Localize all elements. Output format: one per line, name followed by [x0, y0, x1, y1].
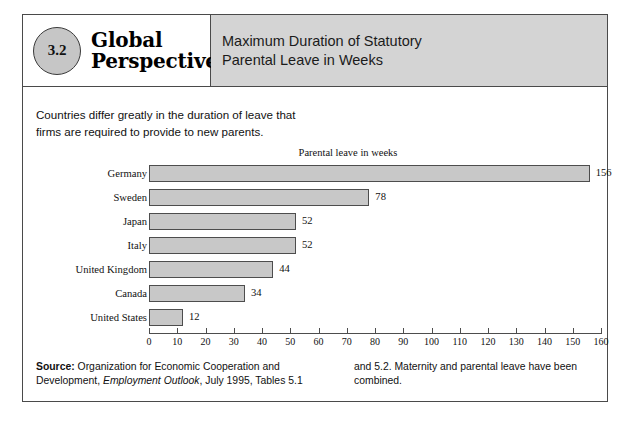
bar-category-label: United Kingdom	[23, 264, 147, 275]
bar-category-label: Sweden	[23, 192, 147, 203]
axis-tick	[403, 328, 404, 334]
axis-tick-label: 120	[481, 336, 496, 347]
axis-tick-label: 160	[594, 336, 609, 347]
axis-tick	[601, 328, 602, 334]
bar-track: 34	[149, 285, 601, 303]
axis-tick	[149, 328, 150, 334]
axis-tick	[347, 328, 348, 334]
source-right-text-1: and 5.2. Maternity and parental leave ha…	[354, 361, 577, 372]
bar-row: Japan52	[23, 213, 607, 237]
axis-tick-label: 130	[509, 336, 524, 347]
bar-value-label: 34	[251, 287, 262, 298]
bar-value-label: 12	[189, 311, 200, 322]
bar-category-label: Japan	[23, 216, 147, 227]
axis-tick	[432, 328, 433, 334]
axis-tick-label: 100	[424, 336, 439, 347]
bar-fill	[149, 189, 369, 206]
bar-value-label: 78	[375, 191, 386, 202]
chart-plot-area: Germany156Sweden78Japan52Italy52United K…	[23, 165, 607, 333]
brand-block: 3.2 Global Perspective	[23, 15, 211, 86]
axis-tick-label: 0	[147, 336, 152, 347]
axis-tick	[516, 328, 517, 334]
page-title-line-2: Parental Leave in Weeks	[222, 51, 422, 69]
axis-tick	[375, 328, 376, 334]
page-title: Maximum Duration of Statutory Parental L…	[222, 32, 422, 69]
axis-tick	[206, 328, 207, 334]
bar-track: 12	[149, 309, 601, 327]
chart-caption: Parental leave in weeks	[23, 147, 607, 158]
bar-fill	[149, 213, 296, 230]
bar-fill	[149, 309, 183, 326]
source-label: Source:	[36, 361, 75, 372]
axis-tick-label: 80	[370, 336, 380, 347]
figure-header: 3.2 Global Perspective Maximum Duration …	[23, 15, 607, 87]
bar-row: Italy52	[23, 237, 607, 261]
figure-number-badge: 3.2	[33, 27, 81, 75]
source-column-right: and 5.2. Maternity and parental leave ha…	[354, 360, 594, 389]
bar-value-label: 44	[279, 263, 290, 274]
axis-tick-label: 150	[565, 336, 580, 347]
bar-track: 52	[149, 213, 601, 231]
axis-tick-label: 110	[452, 336, 467, 347]
bar-category-label: United States	[23, 312, 147, 323]
axis-tick	[177, 328, 178, 334]
brand-title-line-2: Perspective	[91, 51, 218, 72]
axis-tick-label: 30	[229, 336, 239, 347]
source-left-text-2a: Development,	[36, 375, 103, 386]
bar-row: Sweden78	[23, 189, 607, 213]
header-title-band: Maximum Duration of Statutory Parental L…	[211, 15, 607, 86]
bar-row: United States12	[23, 309, 607, 333]
bar-track: 52	[149, 237, 601, 255]
bar-value-label: 52	[302, 239, 313, 250]
axis-tick	[460, 328, 461, 334]
axis-tick	[488, 328, 489, 334]
page-title-line-1: Maximum Duration of Statutory	[222, 32, 422, 50]
bar-category-label: Italy	[23, 240, 147, 251]
bar-track: 78	[149, 189, 601, 207]
bar-value-label: 52	[302, 215, 313, 226]
source-footer: Source: Organization for Economic Cooper…	[36, 360, 594, 389]
brand-title-line-1: Global	[91, 30, 218, 51]
axis-tick-label: 140	[537, 336, 552, 347]
axis-tick	[319, 328, 320, 334]
bar-fill	[149, 261, 273, 278]
intro-text: Countries differ greatly in the duration…	[36, 107, 296, 141]
source-left-text-2b: , July 1995, Tables 5.1	[199, 375, 302, 386]
source-column-left: Source: Organization for Economic Cooper…	[36, 360, 336, 389]
bar-category-label: Canada	[23, 288, 147, 299]
axis-tick-label: 60	[314, 336, 324, 347]
source-left-text-1: Organization for Economic Cooperation an…	[75, 361, 280, 372]
axis-tick	[234, 328, 235, 334]
axis-tick	[290, 328, 291, 334]
axis-tick-label: 20	[201, 336, 211, 347]
axis-tick-label: 90	[398, 336, 408, 347]
bar-fill	[149, 285, 245, 302]
source-right-text-2: combined.	[354, 375, 402, 386]
bar-row: United Kingdom44	[23, 261, 607, 285]
chart-x-axis: 0102030405060708090100110120130140150160	[149, 333, 601, 359]
figure-box: 3.2 Global Perspective Maximum Duration …	[22, 14, 608, 402]
bar-chart: Parental leave in weeks Germany156Sweden…	[23, 147, 607, 347]
intro-line-2: firms are required to provide to new par…	[36, 124, 296, 141]
axis-tick-label: 10	[172, 336, 182, 347]
axis-tick-label: 50	[285, 336, 295, 347]
axis-tick	[545, 328, 546, 334]
bar-row: Canada34	[23, 285, 607, 309]
bar-row: Germany156	[23, 165, 607, 189]
axis-tick-label: 40	[257, 336, 267, 347]
bar-track: 156	[149, 165, 601, 183]
bar-fill	[149, 165, 590, 182]
brand-title: Global Perspective	[91, 30, 218, 71]
bar-track: 44	[149, 261, 601, 279]
axis-tick	[262, 328, 263, 334]
axis-tick-label: 70	[342, 336, 352, 347]
bar-category-label: Germany	[23, 168, 147, 179]
figure-body: Countries differ greatly in the duration…	[23, 87, 607, 401]
bar-fill	[149, 237, 296, 254]
intro-line-1: Countries differ greatly in the duration…	[36, 107, 296, 124]
axis-tick	[573, 328, 574, 334]
source-publication-title: Employment Outlook	[103, 375, 199, 386]
bar-value-label: 156	[596, 167, 612, 178]
